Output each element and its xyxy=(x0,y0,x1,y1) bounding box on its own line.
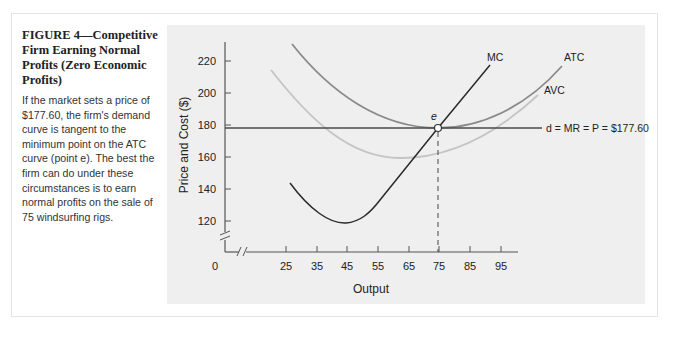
y-tick-label: 180 xyxy=(198,119,216,131)
x-axis-title: Output xyxy=(353,282,390,296)
y-axis: 220 200 180 160 140 120 Price and Cost (… xyxy=(177,42,231,252)
mc-curve xyxy=(290,65,490,223)
y-axis-title: Price and Cost ($) xyxy=(177,97,191,194)
y-tick-label: 160 xyxy=(198,151,216,163)
point-e-label: e xyxy=(431,110,437,122)
x-tick-label: 55 xyxy=(372,260,384,272)
y-tick-label: 120 xyxy=(198,215,216,227)
x-tick-label: 45 xyxy=(341,260,353,272)
equilibrium-point xyxy=(435,125,442,132)
x-tick-label: 65 xyxy=(403,260,415,272)
x-tick-label: 85 xyxy=(464,260,476,272)
x-tick-label: 25 xyxy=(280,260,292,272)
x-tick-label: 35 xyxy=(311,260,323,272)
cost-curves-chart: 220 200 180 160 140 120 Price and Cost (… xyxy=(0,0,690,338)
y-tick-label: 200 xyxy=(198,87,216,99)
y-axis-break-mark xyxy=(220,236,230,240)
mc-label: MC xyxy=(487,51,504,63)
x-tick-label: 75 xyxy=(433,260,445,272)
x-tick-label: 95 xyxy=(495,260,507,272)
demand-label: d = MR = P = $177.60 xyxy=(546,122,649,134)
x-origin-label: 0 xyxy=(212,260,218,272)
x-axis: 0 25 35 45 55 65 75 85 95 Output xyxy=(212,246,518,296)
y-tick-label: 220 xyxy=(198,55,216,67)
avc-label: AVC xyxy=(544,84,565,96)
atc-curve xyxy=(292,44,562,128)
atc-label: ATC xyxy=(564,51,585,63)
y-tick-label: 140 xyxy=(198,183,216,195)
